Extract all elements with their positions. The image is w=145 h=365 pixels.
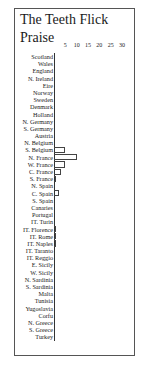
category-label: Austria xyxy=(35,132,53,139)
category-label: N. France xyxy=(29,154,53,161)
bar-row: S. Sardinia xyxy=(0,283,145,290)
category-label: IT. Turin xyxy=(31,218,53,225)
bar-row: S. France xyxy=(0,175,145,182)
category-label: IT. Rome xyxy=(30,233,53,240)
bar-row: C. Spain xyxy=(0,190,145,197)
bar xyxy=(54,233,56,239)
bar-row: N. Sardinia xyxy=(0,276,145,283)
bar-row: N. Spain xyxy=(0,182,145,189)
bar-row: Scotland xyxy=(0,53,145,60)
bar-row: N. Greece xyxy=(0,319,145,326)
category-label: IT. Reggio xyxy=(27,254,53,261)
category-label: Eire xyxy=(43,82,53,89)
x-tick-label: 20 xyxy=(96,41,102,49)
category-label: IT. Taranto xyxy=(26,247,53,254)
category-label: Norway xyxy=(33,89,53,96)
bar-row: IT. Florence xyxy=(0,226,145,233)
category-label: S. Sardinia xyxy=(26,283,53,290)
bar-row: Yugoslavia xyxy=(0,305,145,312)
category-label: Sweden xyxy=(33,96,53,103)
category-label: W. Sicily xyxy=(30,269,53,276)
bar xyxy=(54,226,56,232)
x-tick-label: 30 xyxy=(119,41,125,49)
bar-row: N. Belgium xyxy=(0,139,145,146)
category-label: S. Germany xyxy=(23,125,53,132)
category-label: W. France xyxy=(28,161,53,168)
bar-row: Tunisia xyxy=(0,297,145,304)
category-label: N. Sardinia xyxy=(25,276,53,283)
bar-row: N. France xyxy=(0,154,145,161)
category-label: Turkey xyxy=(35,333,53,340)
bar-row: Denmark xyxy=(0,103,145,110)
bar-row: IT. Taranto xyxy=(0,247,145,254)
bar-row: Malta xyxy=(0,290,145,297)
bar-row: Turkey xyxy=(0,333,145,340)
category-label: Yugoslavia xyxy=(26,305,54,312)
category-label: N. Greece xyxy=(28,319,53,326)
bar-row: Austria xyxy=(0,132,145,139)
bar-row: Wales xyxy=(0,60,145,67)
bar-row: E. Sicily xyxy=(0,261,145,268)
bar xyxy=(54,176,56,182)
bar-row: C. France xyxy=(0,168,145,175)
bar-row: S. Spain xyxy=(0,197,145,204)
bar-row: Canaries xyxy=(0,204,145,211)
bar-row: Portugal xyxy=(0,211,145,218)
x-tick-label: 5 xyxy=(64,41,67,49)
category-label: Malta xyxy=(39,290,53,297)
bar-row: S. Germany xyxy=(0,125,145,132)
bar-row: W. Sicily xyxy=(0,269,145,276)
bar-row: Norway xyxy=(0,89,145,96)
category-label: Wales xyxy=(38,60,53,67)
x-tick-label: 10 xyxy=(74,41,80,49)
category-label: Canaries xyxy=(31,204,53,211)
category-label: Holland xyxy=(33,111,53,118)
category-label: S. Greece xyxy=(29,326,53,333)
category-label: N. Ireland xyxy=(28,75,53,82)
bar-row: Holland xyxy=(0,111,145,118)
bar-row: IT. Rome xyxy=(0,233,145,240)
bar-row: IT. Reggio xyxy=(0,254,145,261)
bar-row: IT. Turin xyxy=(0,218,145,225)
bar-row: W. France xyxy=(0,161,145,168)
category-label: Scotland xyxy=(31,53,53,60)
category-label: Tunisia xyxy=(35,297,53,304)
bar xyxy=(54,240,56,246)
bar-row: N. Ireland xyxy=(0,75,145,82)
bar-row: S. Belgium xyxy=(0,146,145,153)
bar xyxy=(54,147,65,153)
bar-rows: ScotlandWalesEnglandN. IrelandEireNorway… xyxy=(0,53,145,341)
category-label: S. Spain xyxy=(32,197,53,204)
chart-title-line-1: The Teeth Flick xyxy=(20,11,130,29)
category-label: Corfu xyxy=(39,312,53,319)
category-label: S. Belgium xyxy=(25,146,53,153)
x-axis-ticks: 51015202530 xyxy=(0,41,145,51)
category-label: IT. Naples xyxy=(27,240,53,247)
category-label: Portugal xyxy=(32,211,53,218)
bar-row: S. Greece xyxy=(0,326,145,333)
bar-row: IT. Naples xyxy=(0,240,145,247)
category-label: S. France xyxy=(30,175,53,182)
bar-row: England xyxy=(0,67,145,74)
category-label: E. Sicily xyxy=(32,261,53,268)
bar-row: Eire xyxy=(0,82,145,89)
bar xyxy=(54,190,59,196)
bar-row: Corfu xyxy=(0,312,145,319)
category-label: C. Spain xyxy=(32,190,53,197)
category-label: N. Germany xyxy=(22,118,53,125)
bar-row: N. Germany xyxy=(0,118,145,125)
category-label: Denmark xyxy=(30,103,53,110)
x-tick-label: 25 xyxy=(108,41,114,49)
x-tick-label: 15 xyxy=(85,41,91,49)
bar-row: Sweden xyxy=(0,96,145,103)
category-label: England xyxy=(32,67,53,74)
category-label: N. Belgium xyxy=(24,139,53,146)
category-label: C. France xyxy=(29,168,53,175)
bar xyxy=(54,169,61,175)
category-label: N. Spain xyxy=(31,182,53,189)
category-label: IT. Florence xyxy=(23,226,53,233)
bar xyxy=(54,161,65,167)
bar xyxy=(54,154,77,160)
